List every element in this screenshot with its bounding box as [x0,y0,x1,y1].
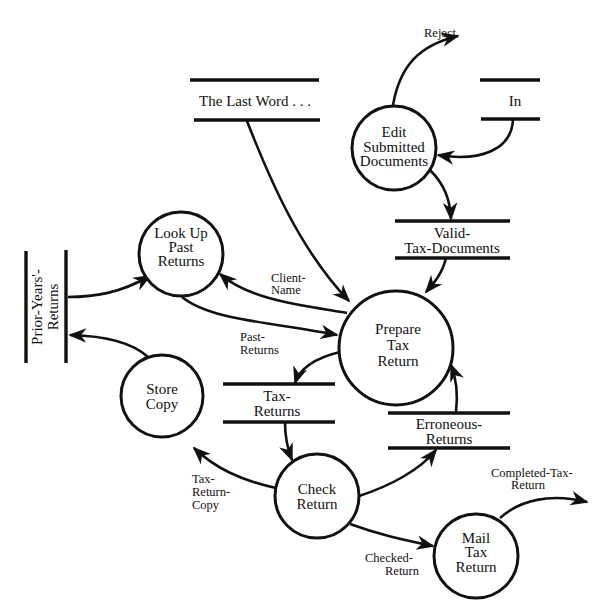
store-label-prior-1: Prior-Years'- [29,269,45,345]
flow-reject [393,36,458,105]
process-store-copy: Store Copy [121,355,203,437]
store-tax-returns: Tax- Returns [223,384,335,422]
store-in: In [480,80,540,119]
process-check-return: Check Return [275,454,359,538]
store-prior-years-returns: Prior-Years'- Returns [26,250,66,363]
process-label-line: Tax [465,544,488,560]
flow-check-to-erroneous [359,450,436,496]
flow-label-line: Copy [192,498,220,512]
store-erroneous-returns: Erroneous- Returns [388,413,510,448]
process-label-line: Store [146,381,178,397]
flow-prior-to-lookup [68,276,150,297]
store-the-last-word: The Last Word . . . [190,80,320,120]
store-label-the-last-word: The Last Word . . . [199,93,311,109]
flow-in-to-edit [438,119,513,157]
flow-checked-return [350,524,433,546]
process-prepare-tax-return: Prepare Tax Return [339,291,453,405]
process-edit-submitted-documents: Edit Submitted Documents [352,106,436,190]
flow-label-tax-return-copy: Tax- Return- Copy [192,472,230,512]
flow-erroneous-to-prepare [451,365,457,412]
store-label-prior-2: Returns [45,284,61,331]
store-label-valid-1: Valid- [434,225,471,241]
process-label-line: Return [297,496,338,512]
process-mail-tax-return: Mail Tax Return [434,514,518,598]
flow-edit-to-valid [430,170,451,219]
flow-label-past-returns: Past- Returns [240,330,279,357]
process-label-line: Tax [387,337,410,353]
store-label-valid-2: Tax-Documents [404,240,500,256]
data-flow-diagram: The Last Word . . . In Valid- Tax-Docume… [0,0,610,614]
flow-label-line: Checked- [365,551,413,565]
flow-valid-to-prepare [426,258,446,292]
store-valid-tax-documents: Valid- Tax-Documents [395,221,510,258]
process-label-line: Documents [360,153,428,169]
store-label-taxreturns-1: Tax- [263,388,290,404]
process-label-line: Return [456,559,497,575]
flow-completed-tax-return [500,498,587,518]
flow-label-reject: Reject [424,26,456,40]
process-label-line: Returns [158,253,205,269]
flow-label-line: Return [511,478,546,492]
flow-label-line: Return- [192,485,230,499]
process-label-line: Return [378,353,419,369]
flow-taxreturns-to-check [285,422,292,460]
flow-label-line: Tax- [192,472,215,486]
flow-label-line: Name [271,283,301,297]
flow-label-client-name: Client- Name [271,271,306,297]
flow-label-checked-return: Checked- Return [365,551,420,578]
flow-label-line: Past- [240,330,265,344]
flow-label-completed-tax-return: Completed-Tax- Return [491,466,573,492]
store-label-erroneous-1: Erroneous- [416,416,483,432]
store-label-taxreturns-2: Returns [254,403,301,419]
process-label-line: Edit [382,124,408,140]
flow-prepare-to-taxreturns [295,352,340,383]
store-label-in: In [509,93,522,109]
process-label-line: Copy [146,396,179,412]
flow-store-to-prior [70,335,148,357]
flow-label-line: Return [385,564,420,578]
flow-label-line: Returns [240,343,279,357]
process-label-line: Prepare [375,321,421,337]
store-label-erroneous-2: Returns [426,431,473,447]
process-label-line: Check [298,481,337,497]
process-look-up-past-returns: Look Up Past Returns [139,212,223,296]
